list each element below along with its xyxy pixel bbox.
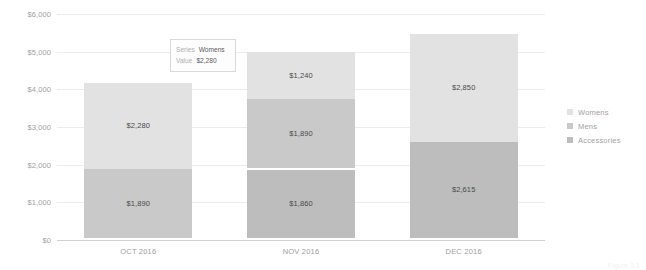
bar-segment-label: $1,860 (289, 199, 313, 208)
stacked-bar-chart: $0$1,000$2,000$3,000$4,000$5,000$6,000 $… (0, 0, 646, 270)
legend-swatch-icon (567, 137, 573, 143)
bar-segment-label: $2,850 (452, 83, 476, 92)
legend-item-label: Womens (578, 108, 609, 117)
bar-segment-label: $2,280 (127, 121, 151, 130)
bar-segment-label: $1,890 (127, 199, 151, 208)
legend-item-accessories[interactable]: Accessories (567, 133, 621, 147)
tooltip-series-row: Series Womens (176, 44, 230, 55)
legend-swatch-icon (567, 123, 573, 129)
bar-segment[interactable]: $1,890 (84, 169, 192, 240)
y-axis-tick-5000: $5,000 (5, 48, 51, 57)
x-axis-tick-dec-2016: DEC 2016 (382, 247, 545, 256)
legend-item-label: Accessories (578, 136, 621, 145)
tooltip-value-row: Value $2,280 (176, 55, 230, 66)
gridline-6000 (57, 14, 545, 15)
x-axis-baseline (57, 240, 545, 241)
data-point-tooltip: Series Womens Value $2,280 (170, 39, 236, 72)
bar-segment[interactable]: $1,240 (247, 52, 355, 99)
x-axis-tick-nov-2016: NOV 2016 (220, 247, 383, 256)
bar-segment[interactable]: $2,615 (410, 142, 518, 240)
bar-group[interactable]: $1,890$2,280 (84, 239, 192, 240)
legend-item-mens[interactable]: Mens (567, 119, 621, 133)
tooltip-series-value: Womens (199, 44, 225, 55)
plot-area: $1,890$2,280$1,860$1,890$1,240$2,615$2,8… (57, 8, 545, 246)
figure-caption: Figure 3-1 (608, 262, 640, 269)
bar-group[interactable]: $2,615$2,850 (410, 239, 518, 240)
tooltip-series-key: Series (176, 44, 195, 55)
bar-segment-label: $1,890 (289, 129, 313, 138)
bar-group[interactable]: $1,860$1,890$1,240 (247, 239, 355, 240)
y-axis-tick-2000: $2,000 (5, 161, 51, 170)
y-axis-tick-0: $0 (5, 236, 51, 245)
legend-item-label: Mens (578, 122, 597, 131)
legend-item-womens[interactable]: Womens (567, 105, 621, 119)
bar-segment[interactable]: $2,280 (84, 83, 192, 169)
y-axis-tick-6000: $6,000 (5, 10, 51, 19)
x-axis-tick-oct-2016: OCT 2016 (57, 247, 220, 256)
y-axis-tick-1000: $1,000 (5, 198, 51, 207)
legend-swatch-icon (567, 109, 573, 115)
y-axis-tick-4000: $4,000 (5, 85, 51, 94)
bar-segment[interactable]: $1,860 (247, 170, 355, 240)
y-axis-tick-3000: $3,000 (5, 123, 51, 132)
tooltip-value-key: Value (176, 55, 192, 66)
bar-segment[interactable]: $1,890 (247, 99, 355, 170)
bar-segment-label: $2,615 (452, 185, 476, 194)
bar-segment-label: $1,240 (289, 71, 313, 80)
tooltip-value-value: $2,280 (196, 55, 216, 66)
bar-segment[interactable]: $2,850 (410, 34, 518, 141)
chart-legend[interactable]: WomensMensAccessories (567, 105, 621, 147)
